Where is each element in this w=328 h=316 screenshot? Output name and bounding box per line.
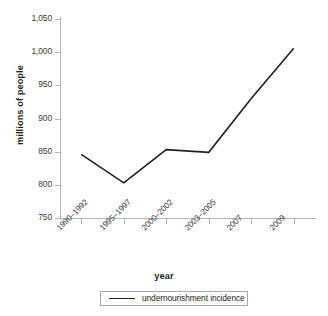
x-axis-title: year <box>0 271 328 281</box>
chart-legend: undernourishment incidence <box>100 291 248 306</box>
x-axis-tick-label: 2003–2005 <box>183 198 218 233</box>
x-axis-tick-label: 2007 <box>225 213 244 232</box>
chart-figure: millions of people 7508008509009501,0001… <box>0 0 328 316</box>
x-axis-tick-label: 1995–1997 <box>98 198 133 233</box>
x-axis-tick-labels: 1990–19921995–19972000–20022003–20052007… <box>0 0 328 316</box>
x-axis-tick-label: 1990–1992 <box>55 198 90 233</box>
legend-item-label: undernourishment incidence <box>142 294 245 303</box>
legend-line-swatch <box>109 298 135 299</box>
x-axis-tick-label: 2009 <box>268 213 287 232</box>
x-axis-tick-label: 2000–2002 <box>140 198 175 233</box>
